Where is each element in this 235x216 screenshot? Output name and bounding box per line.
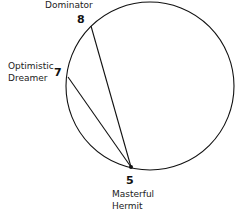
- node-7-number: 7: [54, 66, 62, 79]
- node-5-number: 5: [126, 174, 134, 187]
- edge-8-to-5: [91, 26, 131, 167]
- enneagram-diagram: [0, 0, 235, 216]
- node-8-number: 8: [77, 13, 85, 26]
- node-7-label-line1: Optimistic: [8, 61, 54, 72]
- node-5-label-line1: Masterful: [112, 189, 154, 200]
- node-8-label: Dominator: [45, 0, 93, 11]
- node-5-dot: [129, 165, 133, 169]
- node-5-label-line2: Hermit: [112, 201, 143, 212]
- node-7-label-line2: Dreamer: [8, 73, 48, 84]
